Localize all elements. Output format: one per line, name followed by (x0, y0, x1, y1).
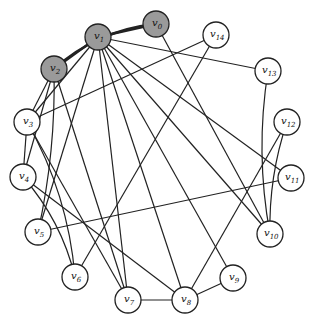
node-v13: v13 (255, 58, 281, 84)
node-v9: v9 (220, 265, 246, 291)
node-v1: v1 (85, 24, 111, 50)
node-layer: v0v1v2v3v4v5v6v7v8v9v10v11v12v13v14 (10, 11, 304, 313)
edge-v1-v7 (98, 37, 128, 300)
node-v5: v5 (25, 219, 51, 245)
node-v0: v0 (143, 11, 169, 37)
edge-v10-v13 (262, 71, 270, 234)
graph-diagram: v0v1v2v3v4v5v6v7v8v9v10v11v12v13v14 (0, 0, 314, 324)
node-v7: v7 (115, 287, 141, 313)
node-v6: v6 (62, 264, 88, 290)
node-v10: v10 (257, 221, 283, 247)
edge-v0-v10 (156, 24, 270, 234)
node-v3: v3 (14, 109, 40, 135)
node-v8: v8 (172, 287, 198, 313)
node-v12: v12 (274, 109, 300, 135)
node-v4: v4 (10, 164, 36, 190)
node-v14: v14 (203, 22, 229, 48)
node-v11: v11 (278, 165, 304, 191)
edge-v5-v11 (38, 178, 291, 232)
edge-v2-v7 (54, 69, 128, 300)
node-v2: v2 (41, 56, 67, 82)
